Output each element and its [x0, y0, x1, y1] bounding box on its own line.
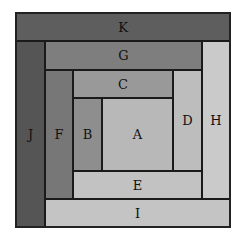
block-label: J — [28, 127, 33, 142]
block-e: E — [73, 171, 202, 199]
block-label: G — [118, 48, 128, 63]
block-label: A — [133, 127, 142, 142]
block-label: B — [83, 127, 93, 142]
block-i: I — [45, 199, 230, 227]
block-g: G — [45, 41, 202, 70]
block-a: A — [102, 98, 173, 171]
block-label: C — [118, 77, 128, 92]
block-h: H — [202, 41, 230, 199]
log-cabin-diagram: KJIHGFEDCBA — [0, 0, 242, 235]
block-k: K — [16, 13, 230, 41]
block-b: B — [73, 98, 102, 171]
block-label: I — [135, 206, 140, 221]
block-label: D — [182, 113, 192, 128]
block-j: J — [16, 41, 45, 227]
block-label: F — [54, 127, 63, 142]
block-label: E — [133, 178, 143, 193]
block-label: K — [118, 20, 128, 35]
block-d: D — [173, 70, 202, 171]
block-c: C — [73, 70, 173, 98]
block-f: F — [45, 70, 73, 199]
block-label: H — [210, 113, 221, 128]
